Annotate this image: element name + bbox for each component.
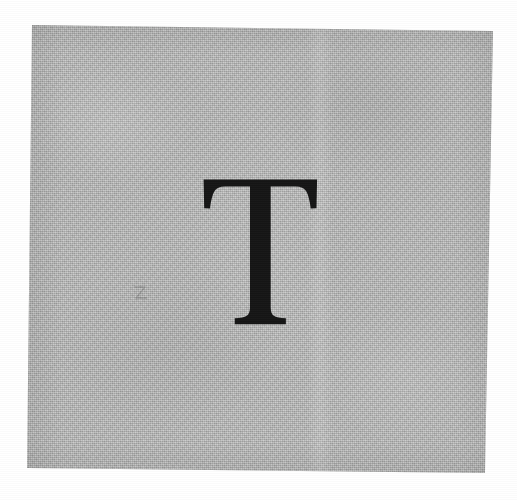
paper-card [25, 23, 495, 475]
paper-texture [25, 23, 495, 475]
scan-canvas [0, 0, 517, 500]
paper-vignette [25, 23, 495, 475]
fold-band-artifact [307, 23, 333, 475]
paper-mottle [25, 23, 495, 475]
